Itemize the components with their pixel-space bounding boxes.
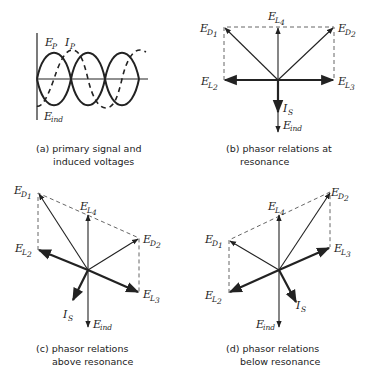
ed1-label: E D 1 (199, 22, 218, 39)
svg-text:1: 1 (27, 192, 32, 201)
svg-text:D: D (337, 192, 344, 201)
svg-text:3: 3 (155, 296, 160, 305)
svg-text:S: S (301, 305, 306, 314)
svg-text:2: 2 (26, 250, 32, 259)
phasor-diagram-figure: E P I P E ind (a) primary signal and ind… (0, 0, 369, 382)
is-vector (73, 270, 88, 300)
is-vector (279, 270, 296, 302)
eind-label: E ind (43, 110, 63, 124)
svg-text:4: 4 (279, 208, 285, 217)
svg-text:ind: ind (51, 115, 63, 124)
ed1-vector (230, 241, 279, 270)
svg-text:2: 2 (212, 83, 218, 92)
caption-b-line2: resonance (240, 156, 289, 167)
ed2-vector (278, 28, 333, 80)
eind-label: E ind (255, 318, 275, 332)
svg-text:D: D (344, 28, 351, 37)
eind-label: E ind (92, 318, 112, 332)
svg-text:1: 1 (218, 241, 223, 250)
el2-label: E L 2 (204, 289, 222, 306)
svg-text:D: D (206, 28, 213, 37)
caption-a-line2: induced voltages (53, 156, 134, 167)
svg-text:D: D (149, 239, 156, 248)
svg-text:2: 2 (343, 194, 349, 203)
svg-text:D: D (20, 190, 27, 199)
ed1-label: E D 1 (13, 184, 32, 201)
svg-text:P: P (69, 42, 76, 51)
el4-label: E L 4 (267, 200, 285, 217)
svg-text:3: 3 (350, 83, 355, 92)
el2-label: E L 2 (200, 75, 218, 92)
ep-label: E P (44, 36, 58, 51)
svg-text:4: 4 (279, 18, 285, 27)
ip-label: I P (64, 36, 76, 51)
panel-c-phasors: E D 1 E L 4 E D 2 E L 2 E L 3 I S E (13, 184, 161, 367)
caption-c-line1: (c) phasor relations (36, 343, 128, 354)
el4-label: E L 4 (79, 200, 97, 217)
svg-text:S: S (68, 314, 73, 323)
svg-text:2: 2 (350, 30, 356, 39)
guide-lines (224, 27, 334, 80)
el2-vector (39, 250, 88, 270)
svg-text:3: 3 (346, 250, 351, 259)
is-label: I S (282, 102, 293, 117)
svg-text:ind: ind (263, 323, 275, 332)
el3-label: E L 3 (333, 242, 351, 259)
svg-text:P: P (51, 42, 58, 51)
panel-a-waveforms: E P I P E ind (a) primary signal and ind… (36, 33, 148, 167)
ed1-vector (225, 28, 278, 80)
svg-text:S: S (288, 108, 293, 117)
caption-d-line2: below resonance (240, 356, 321, 367)
el2-vector (230, 270, 279, 292)
svg-text:2: 2 (155, 241, 161, 250)
el3-label: E L 3 (337, 75, 355, 92)
ed1-label: E D 1 (204, 233, 223, 250)
svg-text:2: 2 (216, 297, 222, 306)
svg-text:D: D (211, 239, 218, 248)
svg-text:1: 1 (213, 30, 218, 39)
el2-label: E L 2 (14, 242, 32, 259)
el3-label: E L 3 (142, 288, 160, 305)
is-label: I S (62, 308, 73, 323)
caption-c-line2: above resonance (52, 356, 134, 367)
ed2-vector (88, 239, 138, 270)
svg-text:ind: ind (290, 124, 302, 133)
caption-d-line1: (d) phasor relations (226, 343, 319, 354)
svg-text:4: 4 (91, 208, 97, 217)
panel-b-phasors: E D 1 E L 4 E D 2 E L 2 E L 3 I S E (199, 10, 356, 167)
ed2-label: E D 2 (330, 186, 349, 203)
svg-text:ind: ind (100, 323, 112, 332)
caption-b-line1: (b) phasor relations at (226, 143, 332, 154)
ed2-label: E D 2 (337, 22, 356, 39)
panel-d-phasors: E D 2 E L 4 E D 1 E L 3 E L 2 I S E (204, 186, 351, 367)
is-label: I S (295, 299, 306, 314)
caption-a-line1: (a) primary signal and (36, 143, 141, 154)
ed2-label: E D 2 (142, 233, 161, 250)
el4-label: E L 4 (267, 10, 285, 27)
eind-label: E ind (282, 119, 302, 133)
el3-vector (88, 270, 138, 292)
